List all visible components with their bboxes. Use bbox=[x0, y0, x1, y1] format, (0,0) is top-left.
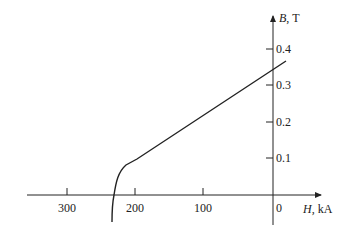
y-ticks bbox=[266, 49, 273, 158]
y-tick-label: 0.4 bbox=[276, 42, 291, 56]
bh-curve bbox=[112, 61, 286, 222]
x-tick-label: 100 bbox=[194, 201, 212, 215]
chart-canvas: 300 200 100 0 0.1 0.2 0.3 0.4 B, T H, kA bbox=[0, 0, 353, 241]
y-tick-label: 0.1 bbox=[276, 151, 291, 165]
y-tick-label: 0.2 bbox=[276, 115, 291, 129]
y-axis-title: B, T bbox=[279, 11, 300, 25]
x-tick-label: 0 bbox=[276, 201, 282, 215]
x-axis-title: H, kA bbox=[302, 202, 333, 216]
x-tick-label: 200 bbox=[126, 201, 144, 215]
bh-chart: 300 200 100 0 0.1 0.2 0.3 0.4 B, T H, kA bbox=[0, 0, 353, 241]
x-ticks bbox=[67, 188, 203, 195]
y-tick-label: 0.3 bbox=[276, 78, 291, 92]
x-tick-label: 300 bbox=[58, 201, 76, 215]
